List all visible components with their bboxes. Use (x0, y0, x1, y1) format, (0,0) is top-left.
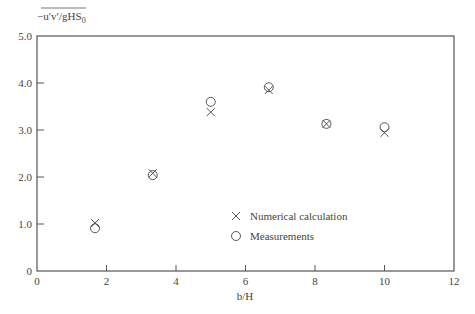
circle-marker-icon (206, 97, 215, 106)
y-tick-label: 2.0 (18, 171, 32, 183)
scatter-chart: 02468101201.02.03.04.05.0 −u′v′/gHS0 b/H… (0, 0, 475, 314)
x-tick-label: 12 (449, 275, 460, 287)
x-marker-icon (322, 120, 330, 128)
x-tick-label: 4 (173, 275, 179, 287)
x-marker-icon (381, 129, 389, 137)
y-tick-label: 3.0 (18, 124, 32, 136)
x-marker-icon (265, 86, 273, 94)
x-axis-title: b/H (237, 290, 254, 302)
legend-x-marker-icon (232, 212, 240, 220)
legend-circle-marker-icon (232, 232, 241, 241)
y-tick-label: 5.0 (18, 30, 32, 42)
legend-label-numerical: Numerical calculation (250, 210, 348, 222)
x-tick-label: 0 (34, 275, 40, 287)
y-tick-label: 1.0 (18, 218, 32, 230)
y-tick-label: 4.0 (18, 77, 32, 89)
x-marker-icon (207, 108, 215, 116)
y-axis-title: −u′v′/gHS0 (37, 10, 86, 25)
legend: Numerical calculation Measurements (232, 210, 348, 242)
x-tick-label: 10 (379, 275, 391, 287)
legend-label-measurements: Measurements (250, 230, 314, 242)
y-tick-label: 0 (27, 265, 33, 277)
axes: 02468101201.02.03.04.05.0 (18, 30, 459, 287)
x-tick-label: 2 (104, 275, 110, 287)
x-tick-label: 8 (312, 275, 318, 287)
circle-marker-icon (380, 123, 389, 132)
x-marker-icon (91, 219, 99, 227)
x-tick-label: 6 (243, 275, 249, 287)
circle-marker-icon (91, 224, 100, 233)
plot-frame (37, 36, 454, 271)
circle-marker-icon (148, 171, 157, 180)
